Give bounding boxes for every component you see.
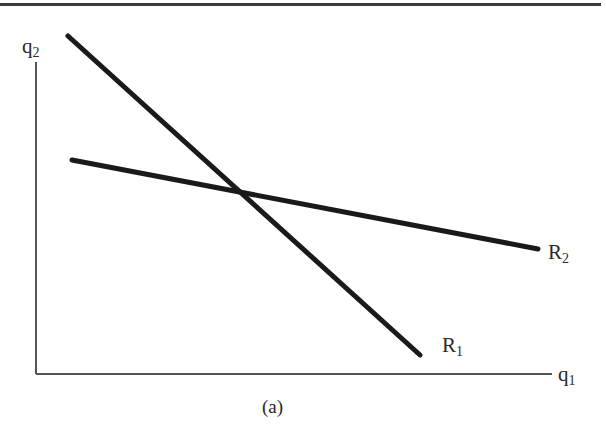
curve-r1 (68, 36, 420, 355)
r1-label: R1 (442, 335, 463, 359)
reaction-function-diagram (0, 0, 606, 441)
curve-r2 (72, 160, 538, 249)
figure-caption: (a) (262, 396, 283, 418)
r2-label: R2 (548, 242, 569, 266)
x-axis-label: q1 (558, 364, 576, 388)
y-axis-label: q2 (22, 36, 40, 60)
